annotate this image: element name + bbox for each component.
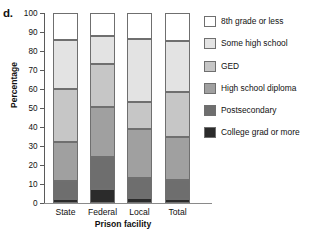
panel-letter: d. <box>3 7 13 19</box>
legend-item: High school diploma <box>203 81 313 103</box>
legend-swatch-ged <box>204 61 216 72</box>
legend-swatch-postsecondary <box>204 105 216 116</box>
y-axis-tick <box>40 89 45 90</box>
legend-item: Postsecondary <box>203 103 313 125</box>
bar-segment <box>127 39 152 103</box>
bar-segment <box>53 181 78 199</box>
legend-swatch-high-school-diploma <box>204 83 216 94</box>
x-axis-tick-label: Total <box>149 207 207 217</box>
legend-swatch-8th-grade-or-less <box>204 16 216 27</box>
y-axis-tick <box>40 146 45 147</box>
legend-item: Some high school <box>203 36 313 58</box>
legend-item-label: Some high school <box>221 36 288 50</box>
y-axis-tick-label: 80 <box>28 47 37 56</box>
bar-segment <box>165 137 190 180</box>
legend-swatch-college-grad-or-more <box>204 127 216 138</box>
bar-segment <box>53 199 78 203</box>
y-axis-tick <box>40 70 45 71</box>
bar-segment <box>127 129 152 178</box>
y-axis-title: Percentage <box>9 45 19 125</box>
legend-item-label: 8th grade or less <box>221 14 283 28</box>
y-axis-tick-label: 10 <box>28 180 37 189</box>
y-axis-tick-label: 100 <box>24 9 38 18</box>
bar-segment <box>53 89 78 142</box>
legend-item-label: Postsecondary <box>221 103 276 117</box>
x-axis-title: Prison facility <box>44 219 202 229</box>
y-axis-tick-label: 20 <box>28 161 37 170</box>
bar-segment <box>127 102 152 129</box>
chart-figure: d. Percentage 0102030405060708090100 Sta… <box>0 0 313 236</box>
legend-swatch-some-high-school <box>204 38 216 49</box>
y-axis-tick <box>40 165 45 166</box>
y-axis-tick <box>40 13 45 14</box>
y-axis-tick-label: 70 <box>28 66 37 75</box>
y-axis-tick-label: 50 <box>28 104 37 113</box>
y-axis-tick <box>40 32 45 33</box>
y-axis-tick <box>40 127 45 128</box>
x-axis-line <box>44 203 212 204</box>
bar-segment <box>90 36 115 65</box>
bar-segment <box>90 13 115 36</box>
stacked-bar <box>53 13 78 203</box>
y-axis-tick <box>40 51 45 52</box>
legend-item: GED <box>203 59 313 81</box>
bar-segment <box>165 41 190 92</box>
y-axis-tick-label: 60 <box>28 85 37 94</box>
bar-segment <box>90 64 115 107</box>
legend-item: College grad or more <box>203 125 313 147</box>
stacked-bar <box>165 13 190 203</box>
chart-legend: 8th grade or lessSome high schoolGEDHigh… <box>203 14 313 148</box>
stacked-bar <box>90 13 115 203</box>
y-axis-tick-label: 30 <box>28 142 37 151</box>
bar-segment <box>53 13 78 40</box>
top-caption-fragment <box>58 0 258 1</box>
bar-segment <box>165 199 190 203</box>
bar-segment <box>53 40 78 89</box>
y-axis-tick <box>40 108 45 109</box>
y-axis-tick <box>40 203 45 204</box>
bar-segment <box>165 13 190 41</box>
bar-segment <box>165 92 190 138</box>
bar-segment <box>90 107 115 157</box>
bar-segment <box>90 189 115 203</box>
legend-item-label: College grad or more <box>221 125 300 139</box>
legend-item: 8th grade or less <box>203 14 313 36</box>
plot-area: 0102030405060708090100 StateFederalLocal… <box>44 13 202 203</box>
bar-segment <box>165 180 190 199</box>
bar-segment <box>127 198 152 203</box>
bar-segment <box>53 142 78 181</box>
bar-segment <box>90 157 115 188</box>
legend-item-label: High school diploma <box>221 81 296 95</box>
legend-item-label: GED <box>221 59 239 73</box>
bar-segment <box>127 178 152 198</box>
y-axis-tick-label: 40 <box>28 123 37 132</box>
stacked-bar <box>127 13 152 203</box>
y-axis-tick <box>40 184 45 185</box>
y-axis-tick-label: 90 <box>28 28 37 37</box>
bar-segment <box>127 13 152 39</box>
